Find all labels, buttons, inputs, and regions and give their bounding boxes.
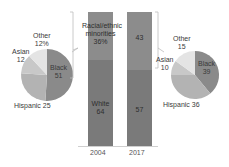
pie-2017-graphic xyxy=(0,0,229,167)
black-value-text: 39 xyxy=(198,68,215,76)
pie-2017-asian-label: Asian 10 xyxy=(156,56,174,72)
asian-label-text: Asian xyxy=(156,56,174,64)
pie-2017-other-label: Other 15 xyxy=(173,35,191,51)
asian-value-text: 10 xyxy=(156,64,174,72)
black-label-text: Black xyxy=(198,60,215,68)
pie-2017-black-label: Black 39 xyxy=(198,60,215,76)
other-label-text: Other xyxy=(173,35,191,43)
pie-2017-hispanic-label: Hispanic 36 xyxy=(163,101,200,109)
other-value-text: 15 xyxy=(173,43,191,51)
